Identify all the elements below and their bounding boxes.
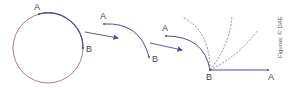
circle-unrolling-diagram: A B A B A B A Figuras: © DAE <box>0 0 292 88</box>
arrow-2 <box>150 43 182 50</box>
stage-cut-arc: A B <box>100 11 158 64</box>
label-b: B <box>86 44 92 54</box>
label-a: A <box>162 23 168 33</box>
dashed-curve-1 <box>182 17 210 70</box>
stage-circle: A B <box>13 2 92 83</box>
stage-straight-segment: B A <box>206 69 274 82</box>
point-a-dot <box>38 13 40 15</box>
label-a: A <box>268 72 274 82</box>
dashed-curve-3 <box>210 30 258 70</box>
point-b-dot <box>148 56 150 58</box>
straightening-arc <box>166 36 210 70</box>
arrow-1 <box>85 32 118 38</box>
figure-credit: Figuras: © DAE <box>277 16 283 58</box>
label-b: B <box>206 72 212 82</box>
label-a: A <box>34 2 40 12</box>
label-a: A <box>100 11 106 21</box>
highlighted-arc <box>39 13 83 48</box>
point-a-dot <box>103 23 105 25</box>
point-b-dot <box>209 69 211 71</box>
label-b: B <box>152 54 158 64</box>
point-b-dot <box>82 47 84 49</box>
cut-arc <box>104 24 149 57</box>
point-a-dot <box>165 35 167 37</box>
dashed-curve-2 <box>210 16 232 70</box>
stage-straightening-arc: A <box>162 23 210 70</box>
point-a-dot <box>267 69 269 71</box>
